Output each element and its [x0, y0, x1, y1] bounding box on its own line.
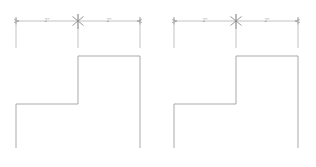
step-outline [16, 56, 140, 148]
center-cross-tick-icon [73, 14, 84, 29]
dimension-label-left: 2" [203, 17, 208, 23]
center-cross-tick-icon [231, 14, 242, 29]
drawing-canvas: 2" 2" [0, 0, 316, 167]
right-step-figure: 2" 2" [158, 0, 316, 167]
step-outline [174, 56, 298, 148]
left-step-figure: 2" 2" [0, 0, 158, 167]
dimension-label-right: 2" [265, 17, 270, 23]
dimension-label-left: 2" [45, 17, 50, 23]
dimension-label-right: 2" [107, 17, 112, 23]
